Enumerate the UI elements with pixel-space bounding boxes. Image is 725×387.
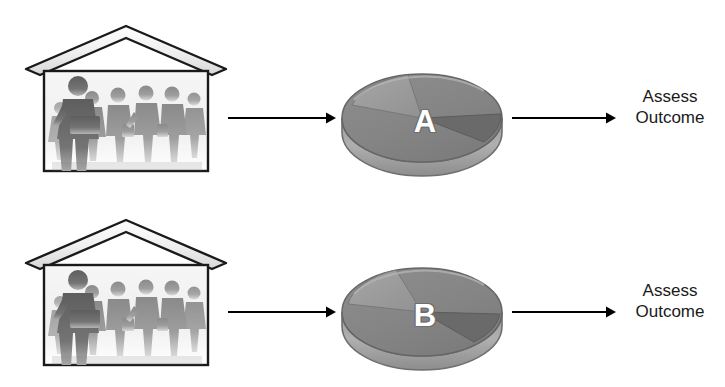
diagram-row-arm-a: A Assess Outcome: [0, 0, 725, 193]
outcome-line-2: Outcome: [620, 107, 720, 128]
diagram-canvas: A Assess Outcome: [0, 0, 725, 387]
arrow-clinic-to-randomisation-a: [228, 108, 336, 128]
outcome-label-b: Assess Outcome: [620, 280, 720, 322]
outcome-line-2: Outcome: [620, 301, 720, 322]
outcome-label-a: Assess Outcome: [620, 86, 720, 128]
pie-chart-a: A: [334, 64, 510, 180]
arrow-randomisation-to-outcome-a: [512, 108, 616, 128]
arrow-randomisation-to-outcome-b: [512, 302, 616, 322]
clinic-house-icon: [22, 214, 230, 369]
clinic-house-icon: [22, 20, 230, 175]
arrow-clinic-to-randomisation-b: [228, 302, 336, 322]
outcome-line-1: Assess: [620, 280, 720, 301]
outcome-line-1: Assess: [620, 86, 720, 107]
pie-chart-b: B: [334, 258, 510, 374]
diagram-row-arm-b: B Assess Outcome: [0, 194, 725, 387]
